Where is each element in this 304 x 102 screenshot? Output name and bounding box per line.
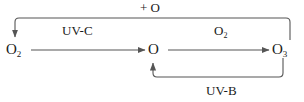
node-o3-right-subscript: 3 xyxy=(283,49,288,59)
node-o2-left-symbol: O xyxy=(6,41,17,57)
loop-o3-to-o-bottom xyxy=(153,58,283,77)
node-o-center: O xyxy=(148,42,159,57)
loop-o3-to-o2-top xyxy=(15,18,290,40)
node-o-center-symbol: O xyxy=(148,41,159,57)
node-o2-left-subscript: 2 xyxy=(17,49,22,59)
node-o3-right-symbol: O xyxy=(272,41,283,57)
node-o3-right: O3 xyxy=(272,42,287,57)
edge-label-plus-o: + O xyxy=(140,1,160,14)
edge-label-uvb: UV-B xyxy=(206,84,237,97)
edge-label-uvc: UV-C xyxy=(62,24,93,37)
edge-label-o2-symbol: O xyxy=(214,23,223,38)
node-o2-left: O2 xyxy=(6,42,21,57)
edge-label-o2-subscript: 2 xyxy=(223,31,227,40)
edge-label-o2: O2 xyxy=(214,24,227,37)
ozone-cycle-diagram: O2 O O3 UV-C O2 + O UV-B xyxy=(0,0,304,102)
